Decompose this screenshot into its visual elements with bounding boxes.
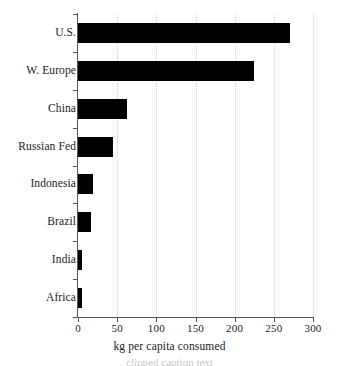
bar xyxy=(78,23,290,43)
y-tick xyxy=(73,128,78,129)
gridline-200 xyxy=(235,14,236,317)
plot-area xyxy=(78,14,313,317)
caption-remnant: clipped caption text xyxy=(0,356,339,366)
y-tick xyxy=(73,166,78,167)
y-tick xyxy=(73,90,78,91)
y-axis-label-africa: Africa xyxy=(46,291,76,304)
gridline-50 xyxy=(117,14,118,317)
y-axis-label-china: China xyxy=(48,102,76,115)
y-axis-label-w-europe: W. Europe xyxy=(26,64,76,77)
x-tick-label-50: 50 xyxy=(97,322,137,335)
bar xyxy=(78,288,82,308)
y-tick xyxy=(73,52,78,53)
gridline-250 xyxy=(274,14,275,317)
bar xyxy=(78,174,93,194)
x-tick-label-300: 300 xyxy=(293,322,333,335)
x-tick-label-200: 200 xyxy=(215,322,255,335)
x-tick-label-250: 250 xyxy=(254,322,294,335)
x-tick-label-100: 100 xyxy=(136,322,176,335)
y-axis-label-u-s: U.S. xyxy=(55,26,76,39)
bar xyxy=(78,61,254,81)
bar xyxy=(78,99,127,119)
y-tick xyxy=(73,203,78,204)
bar xyxy=(78,212,91,232)
x-axis-title: kg per capita consumed xyxy=(0,339,339,353)
y-tick xyxy=(73,241,78,242)
gridline-100 xyxy=(156,14,157,317)
x-tick-label-0: 0 xyxy=(58,322,98,335)
y-tick xyxy=(73,14,78,15)
y-axis-label-indonesia: Indonesia xyxy=(30,177,76,190)
bar-chart: U.S.W. EuropeChinaRussian FedIndonesiaBr… xyxy=(0,0,339,366)
bar xyxy=(78,137,113,157)
y-axis-label-india: India xyxy=(52,253,76,266)
y-axis-label-russian-fed: Russian Fed xyxy=(18,140,76,153)
y-tick xyxy=(73,279,78,280)
gridline-300 xyxy=(313,14,314,317)
x-tick-label-150: 150 xyxy=(176,322,216,335)
gridline-150 xyxy=(196,14,197,317)
bar xyxy=(78,250,82,270)
y-axis-label-brazil: Brazil xyxy=(47,215,76,228)
